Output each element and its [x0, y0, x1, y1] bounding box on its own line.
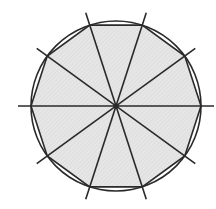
- decagon-figure: [0, 0, 216, 209]
- center-point: [113, 103, 118, 108]
- decagon-diagram: [0, 0, 216, 209]
